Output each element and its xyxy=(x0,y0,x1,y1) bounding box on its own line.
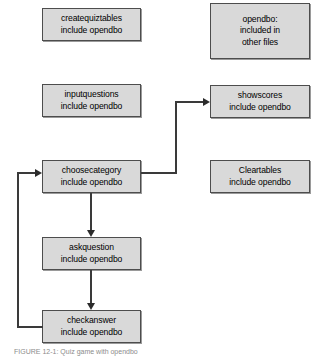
edge-choosecategory-to-askquestion-arrowhead xyxy=(87,230,95,237)
node-label-line: include opendbo xyxy=(61,254,123,266)
edge-checkanswer-to-choosecategory-arrowhead xyxy=(35,169,42,177)
edge-askquestion-to-checkanswer-segment-v xyxy=(90,270,92,303)
node-label-line: include opendbo xyxy=(61,327,123,339)
node-label-line: checkanswer xyxy=(67,315,116,327)
node-showscores[interactable]: showscores include opendbo xyxy=(210,85,310,118)
node-label-line: askquestion xyxy=(69,242,114,254)
node-label-line: Cleartables xyxy=(239,165,281,177)
edge-choosecategory-to-showscores-arrowhead xyxy=(203,98,210,106)
node-label-line: include opendbo xyxy=(61,177,123,189)
node-checkanswer[interactable]: checkanswer include opendbo xyxy=(42,310,141,343)
node-label-line: inputquestions xyxy=(64,89,118,101)
flowchart-canvas: createquiztables include opendbo opendbo… xyxy=(0,0,323,356)
node-label-line: opendbo: xyxy=(242,14,277,26)
edge-choosecategory-to-askquestion-segment-v xyxy=(90,193,92,230)
edge-checkanswer-to-choosecategory-segment-h1 xyxy=(17,326,43,328)
node-askquestion[interactable]: askquestion include opendbo xyxy=(42,237,141,270)
node-label-line: include opendbo xyxy=(229,102,291,114)
node-inputquestions[interactable]: inputquestions include opendbo xyxy=(42,84,141,117)
figure-caption: FIGURE 12-1: Quiz game with opendbo xyxy=(14,347,314,356)
node-opendbo[interactable]: opendbo: included in other files xyxy=(210,3,310,59)
node-label-line: other files xyxy=(242,37,278,49)
node-cleartables[interactable]: Cleartables include opendbo xyxy=(210,160,310,193)
node-label-line: included in xyxy=(240,25,280,37)
node-label-line: choosecategory xyxy=(62,165,121,177)
node-label-line: include opendbo xyxy=(61,101,123,113)
edge-choosecategory-to-showscores-segment-h2 xyxy=(175,101,203,103)
node-label-line: createquiztables xyxy=(61,13,122,25)
node-label-line: include opendbo xyxy=(61,25,123,37)
edge-checkanswer-to-choosecategory-segment-h2 xyxy=(17,172,35,174)
node-label-line: include opendbo xyxy=(229,177,291,189)
node-choosecategory[interactable]: choosecategory include opendbo xyxy=(42,160,141,193)
edge-choosecategory-to-showscores-segment-v xyxy=(175,102,177,173)
edge-checkanswer-to-choosecategory-segment-v xyxy=(17,172,19,327)
node-createquiztables[interactable]: createquiztables include opendbo xyxy=(42,8,141,41)
edge-choosecategory-to-showscores-segment-h1 xyxy=(141,172,177,174)
edge-askquestion-to-checkanswer-arrowhead xyxy=(87,303,95,310)
node-label-line: showscores xyxy=(238,90,282,102)
